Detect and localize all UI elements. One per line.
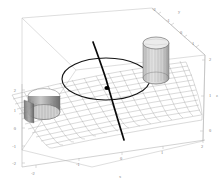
x-tick-label: 0 <box>120 156 123 161</box>
z-tick-label: 2 <box>14 88 16 93</box>
x-tick-label: 1 <box>161 150 163 155</box>
surface-plot-figure: 2 1 0 -1 -2 -2 -1 0 1 2 -2 -1 0 1 2 <box>0 0 224 184</box>
z-axis-label: z <box>216 93 218 98</box>
plot-canvas: 2 1 0 -1 -2 -2 -1 0 1 2 -2 -1 0 1 2 <box>0 0 224 184</box>
axis-name-labels: x y z <box>119 9 218 179</box>
z-tick-label: -2 <box>12 161 16 166</box>
y-axis-label: y <box>178 9 181 14</box>
x-axis-tick-labels: -2 -1 0 1 2 <box>31 144 203 176</box>
x-axis-label: x <box>119 174 122 179</box>
well-shadow <box>24 100 34 123</box>
z-axis-tick-labels: 2 1 0 -1 -2 <box>12 88 16 166</box>
y-tick-label: 0 <box>180 30 183 35</box>
y-tick-label: -2 <box>152 7 156 12</box>
z-tick-label: 1 <box>14 108 16 113</box>
right-axis-tick-labels: 2 1 0 <box>209 57 212 133</box>
x-tick-label: -2 <box>31 171 35 176</box>
right-tick-label: 0 <box>209 128 212 133</box>
y-tick-label: -1 <box>166 18 170 23</box>
right-tick-label: 2 <box>209 57 211 62</box>
right-tick-label: 1 <box>209 93 211 98</box>
z-tick-label: 0 <box>14 126 17 131</box>
y-tick-label: 1 <box>192 41 194 46</box>
right-axis-line <box>203 55 205 141</box>
x-tick-label: 2 <box>201 144 203 149</box>
point-marker <box>104 86 109 90</box>
z-tick-label: -1 <box>12 144 16 149</box>
x-tick-label: -1 <box>76 162 80 167</box>
raised-column <box>143 37 169 84</box>
